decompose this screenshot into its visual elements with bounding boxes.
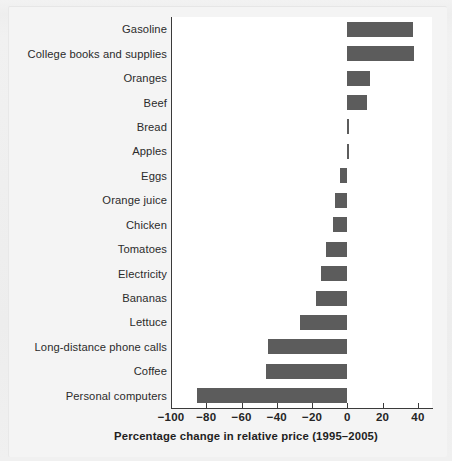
x-tick-mark--20 [312, 403, 313, 409]
x-axis-title: Percentage change in relative price (199… [0, 430, 452, 442]
x-tick-mark--100 [171, 403, 172, 409]
x-tick-label-0: 0 [327, 411, 367, 423]
x-tick-label-40: 40 [398, 411, 438, 423]
x-tick-mark--80 [206, 403, 207, 409]
x-tick-label--100: −100 [151, 411, 191, 423]
x-axis-ticks: −100−80−60−40−2002040 [0, 0, 452, 461]
x-tick-mark-0 [347, 403, 348, 409]
x-tick-mark-20 [383, 403, 384, 409]
x-tick-label--20: −20 [292, 411, 332, 423]
x-tick-label--40: −40 [257, 411, 297, 423]
x-tick-label--80: −80 [186, 411, 226, 423]
x-tick-label-20: 20 [363, 411, 403, 423]
x-tick-mark--40 [277, 403, 278, 409]
x-tick-mark--60 [242, 403, 243, 409]
x-tick-label--60: −60 [222, 411, 262, 423]
bar-chart-figure: GasolineCollege books and suppliesOrange… [0, 0, 452, 461]
x-tick-mark-40 [418, 403, 419, 409]
